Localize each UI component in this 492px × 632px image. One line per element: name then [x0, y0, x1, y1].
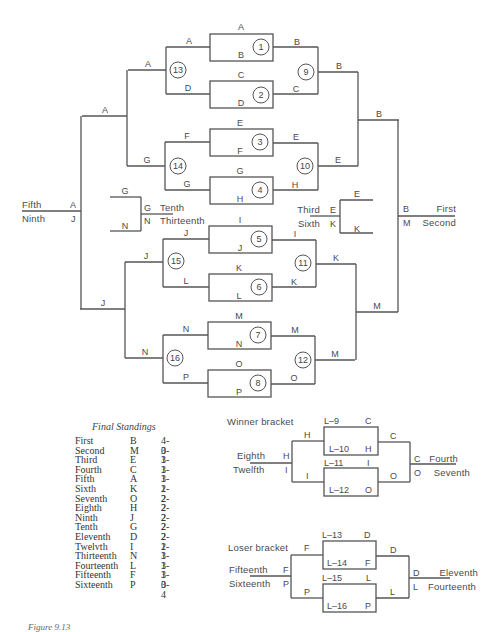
game-10-top-team: E: [293, 132, 299, 142]
game-9-bottom-team: C: [293, 84, 300, 94]
left-round3b-bottom-team: N: [142, 347, 149, 357]
wb-game-b-top-team: I: [367, 458, 370, 468]
loser-bracket-title: Loser bracket: [228, 543, 288, 553]
seventh-place-team: O: [414, 468, 421, 478]
game-number-8: 8: [250, 375, 267, 392]
game-16-bottom-team: P: [183, 372, 189, 382]
game-number-14: 14: [170, 158, 187, 175]
right-round3b-bottom-team: M: [331, 349, 339, 359]
wb-left-bottom-team: I: [306, 471, 309, 481]
second-place-team: M: [403, 218, 411, 228]
lb-game-b-top-team: L: [366, 573, 371, 583]
game-number-11: 11: [295, 255, 312, 272]
lb-right-bottom-team: L: [390, 587, 395, 597]
fourteenth-place-team: L: [413, 582, 418, 592]
game-number-6: 6: [251, 279, 268, 296]
game-12-top-team: M: [291, 325, 299, 335]
lb-left-bottom-team: P: [304, 587, 310, 597]
game-5-top-team: I: [239, 215, 242, 225]
lb-game-a-bottom-label: L–14: [327, 558, 347, 568]
game-8-bottom-team: P: [236, 387, 242, 397]
fourteenth-place-label: Fourteenth: [428, 582, 476, 592]
game-4-bottom-team: H: [237, 194, 244, 204]
game-number-9: 9: [298, 64, 315, 81]
game-7-bottom-team: N: [236, 339, 243, 349]
first-place-team: B: [403, 204, 409, 214]
place: Sixteenth: [75, 580, 113, 590]
game-13-top-team: A: [186, 36, 192, 46]
game-number-16: 16: [167, 350, 184, 367]
game-11-top-team: I: [294, 229, 297, 239]
lb-game-a-top-team: D: [364, 530, 371, 540]
game-14-top-team: F: [184, 131, 190, 141]
wb-game-a-top-label: L–9: [324, 416, 339, 426]
wb-left-top-team: H: [304, 430, 311, 440]
fifteenth-place-team: F: [283, 565, 289, 575]
game-4-top-team: G: [236, 166, 243, 176]
sixteenth-place-label: Sixteenth: [229, 579, 270, 589]
fifteenth-place-label: Fifteenth: [229, 565, 268, 575]
lb-game-b-top-label: L–15: [322, 573, 342, 583]
left-final-top-team: A: [102, 105, 108, 115]
right-round3-bottom-team: E: [335, 155, 341, 165]
fifth-place-label: Fifth: [22, 200, 41, 210]
wb-game-b-top-label: L–11: [324, 458, 343, 468]
team: P: [130, 580, 136, 590]
winner-bracket-title: Winner bracket: [227, 417, 294, 427]
fourth-place-label: Fourth: [429, 454, 458, 464]
lb-game-a-top-label: L–13: [322, 530, 342, 540]
second-place-label: Second: [423, 218, 456, 228]
game-1-top-team: A: [238, 22, 244, 32]
thirteenth-place-team: N: [144, 216, 151, 226]
game-3-top-team: E: [237, 118, 243, 128]
right-round3-top-team: B: [336, 61, 342, 71]
wb-right-top-team: C: [390, 431, 397, 441]
game-number-1: 1: [253, 39, 270, 56]
game-number-3: 3: [252, 134, 269, 151]
lb-right-top-team: D: [390, 545, 397, 555]
figure-caption: Figure 9.13: [28, 622, 70, 632]
tenth-game-bottom-team: N: [122, 221, 129, 231]
game-12-bottom-team: O: [290, 373, 297, 383]
game-number-4: 4: [252, 182, 269, 199]
game-6-bottom-team: L: [236, 291, 241, 301]
game-number-15: 15: [168, 253, 185, 270]
game-6-top-team: K: [236, 263, 242, 273]
game-number-12: 12: [295, 352, 312, 369]
right-final-bottom-team: M: [373, 301, 381, 311]
wb-game-b-bottom-team: O: [365, 485, 372, 495]
twelfth-place-label: Twelfth: [233, 465, 265, 475]
lb-game-b-bottom-team: P: [365, 601, 371, 611]
game-3-bottom-team: F: [237, 146, 243, 156]
game-14-bottom-team: G: [183, 179, 190, 189]
wb-game-a-bottom-team: H: [365, 444, 372, 454]
third-game-top-team: E: [354, 189, 360, 199]
sixth-place-label: Sixth: [298, 219, 320, 229]
first-place-label: First: [437, 204, 456, 214]
tenth-game-top-team: G: [121, 186, 128, 196]
tenth-place-label: Tenth: [160, 203, 184, 213]
game-7-top-team: M: [235, 311, 243, 321]
sixteenth-place-team: P: [283, 579, 289, 589]
twelfth-place-team: I: [285, 465, 288, 475]
eighth-place-label: Eighth: [237, 451, 265, 461]
game-number-13: 13: [170, 62, 187, 79]
ninth-place-team: J: [71, 214, 76, 224]
game-11-bottom-team: K: [291, 277, 297, 287]
eighth-place-team: H: [283, 451, 290, 461]
game-13-bottom-team: D: [185, 83, 192, 93]
left-round3-bottom-team: G: [143, 155, 150, 165]
sixth-place-team: K: [330, 219, 336, 229]
tenth-place-team: G: [144, 203, 151, 213]
lb-game-a-bottom-team: F: [365, 558, 371, 568]
third-game-bottom-team: K: [354, 224, 360, 234]
game-number-2: 2: [253, 87, 270, 104]
left-round3b-top-team: J: [144, 251, 149, 261]
right-round3b-top-team: K: [333, 253, 339, 263]
game-5-bottom-team: J: [238, 243, 243, 253]
game-8-top-team: O: [235, 359, 242, 369]
third-place-label: Third: [297, 205, 320, 215]
game-2-top-team: C: [238, 70, 245, 80]
